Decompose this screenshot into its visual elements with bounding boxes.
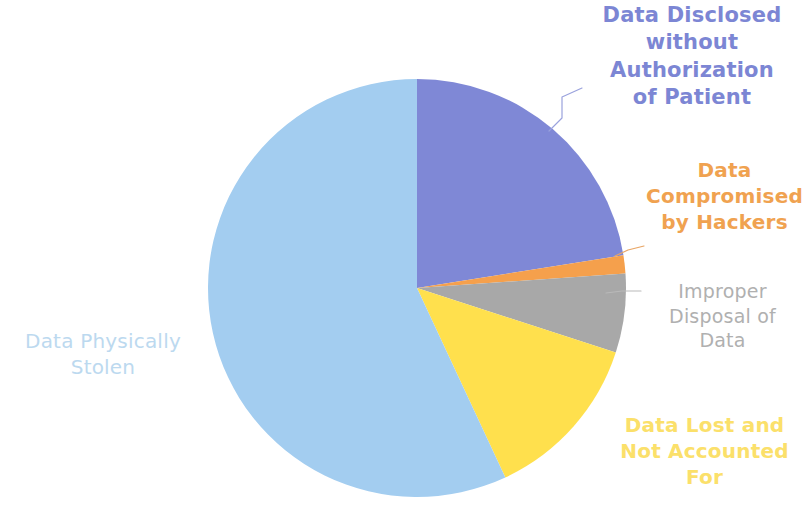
pie-label-line: Data [636,328,809,353]
pie-label-line: Improper [636,279,809,304]
pie-label-line: Data Disclosed [578,2,806,29]
pie-label-line: Stolen [0,354,206,380]
pie-label-line: Disposal of [636,304,809,329]
pie-label-line: Data Physically [0,328,206,354]
pie-label-data-disclosed: Data Disclosed without Authorization of … [578,2,806,111]
pie-label-data-physically-stolen: Data Physically Stolen [0,328,206,380]
pie-label-line: Data Lost and [600,412,809,438]
pie-chart-figure: Data Disclosed without Authorization of … [0,0,809,517]
pie-label-data-compromised-by-hackers: Data Compromised by Hackers [640,157,809,235]
pie-label-line: Data [640,157,809,183]
pie-label-line: Not Accounted [600,438,809,464]
pie-label-line: Authorization [578,57,806,84]
pie-wedge-group [208,79,626,497]
pie-label-line: by Hackers [640,209,809,235]
pie-label-data-lost-and-not-accounted-for: Data Lost and Not Accounted For [600,412,809,490]
pie-label-line: Compromised [640,183,809,209]
pie-label-line: without [578,29,806,56]
pie-label-improper-disposal-of-data: Improper Disposal of Data [636,279,809,353]
pie-label-line: For [600,464,809,490]
pie-label-line: of Patient [578,84,806,111]
